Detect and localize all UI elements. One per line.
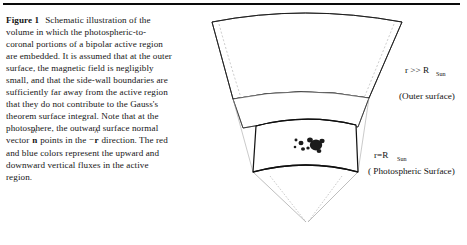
label-inner-radius-subscript: Sun (397, 156, 406, 162)
label-inner-radius-main: r=R (374, 150, 389, 160)
hat-accent-r-icon: ^ (94, 129, 99, 137)
ray-left-solid (253, 172, 306, 222)
label-outer-radius-subscript: Sun (436, 71, 445, 77)
ray-right-dashed (308, 176, 342, 222)
schematic-diagram: r >> R Sun (Outer surface) r=R Sun ( Pho… (186, 0, 467, 245)
photospheric-surface-patch (253, 119, 358, 172)
ray-right-solid (308, 172, 358, 222)
figure-caption: Figure 1Schematic illustration of the vo… (6, 14, 174, 183)
active-region-spot-following-a (295, 139, 298, 142)
active-region-spot-leading-a (319, 139, 324, 144)
radial-vector-r-symbol: ^r (94, 134, 99, 146)
active-region-spot-leading-b (307, 138, 313, 143)
active-region-spot-leading-c (317, 149, 322, 153)
label-outer-surface: (Outer surface) (399, 91, 455, 101)
caption-text-part-2: points in the − (38, 135, 94, 145)
figure-number-label: Figure 1 (6, 15, 39, 25)
normal-vector-n-symbol: ^n (32, 134, 38, 146)
active-region-spot-following-c (294, 146, 297, 148)
outer-wedge-body (212, 13, 402, 99)
label-outer-radius-main: r >> R (405, 65, 430, 75)
wedge-volume-svg: r >> R Sun (Outer surface) r=R Sun ( Pho… (186, 0, 467, 245)
label-photospheric-surface: ( Photospheric Surface) (368, 166, 455, 176)
radial-ray-lines (253, 172, 358, 222)
active-region-spot-following-b (301, 147, 305, 151)
caption-text-part-1: Schematic illustration of the volume in … (6, 15, 172, 145)
active-region-spot-following-main (299, 141, 304, 146)
active-region-spot-following-d (306, 147, 309, 150)
ray-left-dashed (270, 176, 306, 222)
hat-accent-n-icon: ^ (32, 129, 38, 137)
